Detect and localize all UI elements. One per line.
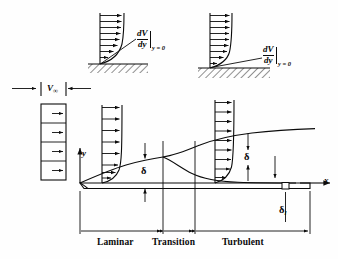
delta-turbulent-label: δ [244, 152, 249, 163]
delta-laminar-label: δ [141, 166, 146, 177]
laminar-wall-gradient-label: dV dy y = 0 [136, 29, 165, 50]
y-axis-label: y [82, 149, 86, 158]
evaluation-bar-icon [276, 47, 277, 64]
turbulent-profile [215, 100, 234, 183]
uniform-approach-profile [41, 104, 66, 180]
delta-sublayer-label: δl [279, 205, 286, 217]
laminar-sublayer-edge [163, 157, 296, 183]
boundary-layer-edge [80, 129, 315, 183]
x-axis-label: x [324, 176, 329, 185]
region-label-transition: Transition [152, 238, 195, 248]
region-label-laminar: Laminar [97, 238, 134, 248]
derivative-fraction: dV dy [136, 29, 149, 50]
freestream-velocity-label: V∞ [47, 84, 58, 95]
evaluation-bar-icon [150, 31, 151, 48]
boundary-layer-figure: dV dy y = 0 dV dy y = 0 V∞ y x δ δ δl La… [0, 0, 338, 259]
derivative-fraction: dV dy [262, 45, 275, 66]
region-label-turbulent: Turbulent [222, 238, 264, 248]
turbulent-wall-shear-inset [198, 13, 270, 78]
figure-canvas [0, 0, 338, 259]
turbulent-wall-gradient-label: dV dy y = 0 [262, 45, 291, 66]
laminar-profile [102, 105, 122, 183]
